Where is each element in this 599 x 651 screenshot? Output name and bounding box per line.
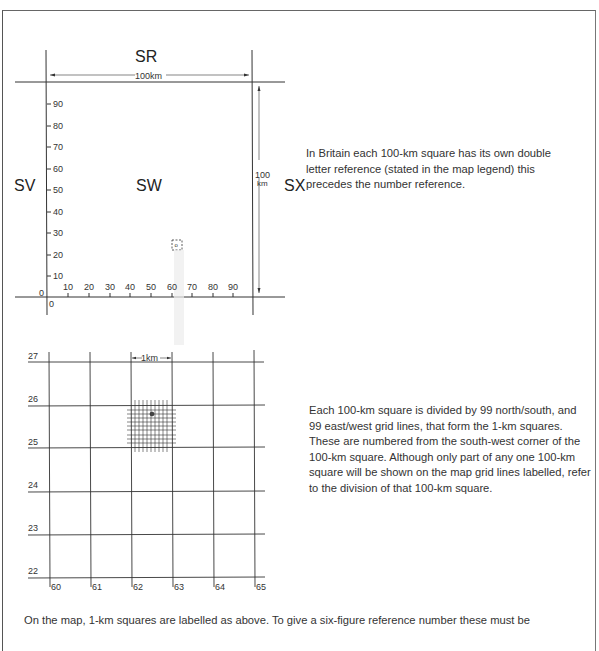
footer-text: On the map, 1-km squares are labelled as… — [24, 614, 530, 626]
height-label-2: km — [257, 179, 268, 188]
easting-label: 64 — [215, 582, 225, 592]
y-tick-label: 20 — [53, 250, 63, 260]
bottom-panel-labels: 1km 27 26 25 24 23 22 60 61 62 63 64 65 — [28, 351, 266, 592]
top-panel-labels: SR SV SW SX 100km 100 km 90 80 70 60 50 … — [14, 48, 306, 309]
x-tick-label: 60 — [167, 282, 177, 292]
label-sw: SW — [136, 177, 163, 194]
easting-label: 65 — [256, 582, 266, 592]
x-tick-label: 30 — [105, 282, 115, 292]
x-tick-label: 50 — [146, 282, 156, 292]
label-sr: SR — [135, 48, 157, 65]
northing-label: 22 — [28, 566, 38, 576]
easting-label: 61 — [92, 582, 102, 592]
bottom-panel-grid — [28, 350, 265, 587]
origin-y-label: 0 — [39, 288, 44, 298]
width-label: 100km — [135, 71, 162, 81]
northing-label: 27 — [28, 351, 38, 361]
projection-beam — [174, 250, 184, 345]
y-tick-label: 80 — [53, 121, 63, 131]
x-tick-label: 80 — [208, 282, 218, 292]
origin-x-label: 0 — [49, 299, 54, 309]
easting-label: 62 — [133, 582, 143, 592]
northing-label: 25 — [28, 437, 38, 447]
x-tick-label: 40 — [125, 282, 135, 292]
y-tick-label: 10 — [53, 271, 63, 281]
easting-label: 63 — [174, 582, 184, 592]
scale-label: 1km — [141, 353, 158, 363]
easting-label: 60 — [51, 582, 61, 592]
y-tick-label: 90 — [53, 99, 63, 109]
explanation-grid-division: Each 100-km square is divided by 99 nort… — [309, 403, 591, 496]
label-sv: SV — [14, 177, 36, 194]
northing-label: 24 — [28, 480, 38, 490]
y-tick-label: 40 — [53, 207, 63, 217]
x-tick-label: 70 — [187, 282, 197, 292]
location-point — [150, 412, 154, 416]
y-tick-label: 60 — [53, 164, 63, 174]
marker-label: o — [175, 242, 179, 248]
x-tick-label: 90 — [228, 282, 238, 292]
y-tick-label: 30 — [53, 228, 63, 238]
northing-label: 26 — [28, 394, 38, 404]
explanation-letter-reference: In Britain each 100-km square has its ow… — [306, 146, 576, 193]
x-tick-label: 10 — [63, 282, 73, 292]
northing-label: 23 — [28, 523, 38, 533]
label-sx: SX — [284, 177, 306, 194]
fine-grid — [127, 400, 176, 452]
y-tick-label: 50 — [53, 185, 63, 195]
y-tick-label: 70 — [53, 142, 63, 152]
x-tick-label: 20 — [84, 282, 94, 292]
